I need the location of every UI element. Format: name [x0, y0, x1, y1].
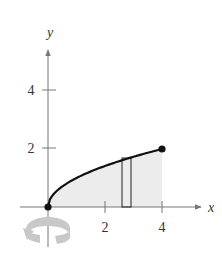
endpoint-4-2: [158, 145, 165, 152]
y-axis-label: y: [45, 25, 54, 40]
y-tick-label-2: 2: [28, 141, 35, 156]
x-tick-label-2: 2: [102, 220, 109, 235]
shaded-region: [48, 149, 162, 207]
y-tick-label-4: 4: [28, 83, 35, 98]
diagram-canvas: 2 4 2 4 x y: [0, 0, 222, 257]
rotation-arrow-icon: [23, 217, 70, 244]
endpoint-origin: [44, 203, 51, 210]
x-tick-label-4: 4: [159, 220, 166, 235]
x-axis-label: x: [207, 200, 215, 215]
